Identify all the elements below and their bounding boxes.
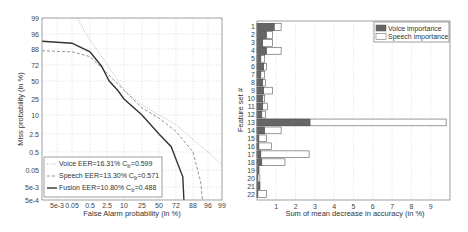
x-tick-label: 96 — [204, 202, 212, 209]
x-tick-label: 88 — [189, 202, 197, 209]
bar-legend: Voice importanceSpeech importance — [374, 22, 449, 42]
bar-voice — [257, 47, 267, 54]
y-tick-label: 5e-3 — [25, 184, 39, 191]
bar-speech — [257, 191, 267, 198]
y-tick-label: 22 — [247, 191, 255, 198]
y-tick-label: 8 — [251, 79, 255, 86]
bar-voice — [257, 79, 263, 86]
feature-importance-plot: 1234567891234567891011121314151617181920… — [236, 21, 450, 218]
y-tick-label: 2 — [251, 31, 255, 38]
det-legend: Voice EER=16.31% Cllr=0.599Speech EER=13… — [44, 157, 162, 197]
bar-voice — [257, 127, 265, 134]
bar-voice — [257, 151, 261, 158]
y-tick-label: 12 — [247, 111, 255, 118]
y-tick-label: 0.5 — [29, 149, 39, 156]
x-tick-label: 5e-3 — [50, 202, 64, 209]
bar-voice — [257, 111, 262, 118]
x-tick-label: 2.5 — [102, 202, 112, 209]
y-tick-label: 0.05 — [25, 167, 39, 174]
legend-entry: Speech importance — [388, 33, 448, 41]
y-tick-label: 21 — [247, 183, 255, 190]
x-axis-label: False Alarm probability (in %) — [83, 209, 181, 218]
y-tick-label: 18 — [247, 159, 255, 166]
y-tick-label: 14 — [247, 127, 255, 134]
y-tick-label: 5e-4 — [25, 197, 39, 204]
bar-voice — [257, 63, 264, 70]
figure-canvas: 5e-30.050.52.510255072889699999688725025… — [0, 0, 468, 232]
bar-voice — [257, 55, 261, 62]
x-tick-label: 10 — [120, 202, 128, 209]
y-tick-label: 2.5 — [29, 131, 39, 138]
bar-voice — [257, 40, 263, 47]
y-tick-label: 4 — [251, 47, 255, 54]
y-tick-label: 88 — [31, 46, 39, 53]
bar-voice — [257, 119, 310, 126]
y-tick-label: 7 — [251, 71, 255, 78]
bar-voice — [257, 87, 264, 94]
bar-voice — [257, 32, 267, 39]
bar-voice — [257, 24, 274, 31]
x-tick-label: 72 — [172, 202, 180, 209]
y-tick-label: 19 — [247, 167, 255, 174]
y-tick-label: 1 — [251, 23, 255, 30]
x-tick-label: 1 — [274, 203, 278, 210]
bar-voice — [257, 95, 263, 102]
y-tick-label: 10 — [31, 112, 39, 119]
x-axis-label: Sum of mean decrease in accuracy (in %) — [285, 209, 425, 218]
bar-voice — [257, 71, 261, 78]
x-tick-label: 0.5 — [85, 202, 95, 209]
bar-voice — [257, 159, 262, 166]
x-tick-label: 0.05 — [65, 202, 79, 209]
y-tick-label: 50 — [31, 78, 39, 85]
y-tick-label: 96 — [31, 31, 39, 38]
bar-voice — [257, 183, 260, 190]
y-tick-label: 13 — [247, 119, 255, 126]
y-tick-label: 9 — [251, 87, 255, 94]
bar-voice — [257, 103, 263, 110]
x-tick-label: 25 — [138, 202, 146, 209]
bar-speech — [257, 151, 309, 158]
y-tick-label: 6 — [251, 63, 255, 70]
y-tick-label: 16 — [247, 143, 255, 150]
x-tick-label: 99 — [218, 202, 226, 209]
x-tick-label: 9 — [429, 203, 433, 210]
y-tick-label: 15 — [247, 135, 255, 142]
y-tick-label: 72 — [31, 62, 39, 69]
y-tick-label: 17 — [247, 151, 255, 158]
y-tick-label: 10 — [247, 95, 255, 102]
y-tick-label: 25 — [31, 96, 39, 103]
legend-entry: Voice importance — [388, 25, 442, 33]
y-tick-label: 11 — [248, 103, 255, 110]
x-tick-label: 50 — [155, 202, 163, 209]
y-tick-label: 99 — [31, 15, 39, 22]
det-plot: 5e-30.050.52.510255072889699999688725025… — [16, 15, 226, 219]
y-tick-label: 3 — [251, 39, 255, 46]
y-axis-label: Miss probability (in %) — [16, 72, 25, 146]
y-axis-label: Feature set # — [236, 87, 245, 132]
y-tick-label: 20 — [247, 175, 255, 182]
y-tick-label: 5 — [251, 55, 255, 62]
